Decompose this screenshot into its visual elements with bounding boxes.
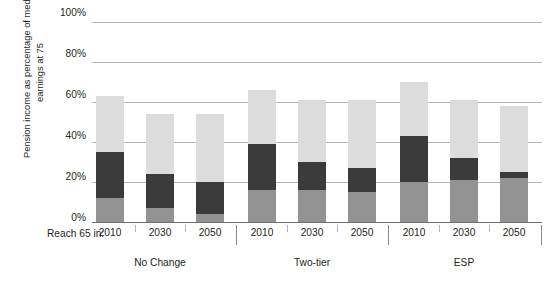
x-tick-label-3: 2050 [187,227,233,238]
bar-segment-top [400,82,428,136]
x-axis-tick-2 [185,225,186,232]
x-tick-label-2: 2030 [137,227,183,238]
bar-6[interactable] [348,100,376,222]
bar-8[interactable] [450,100,478,222]
group-label-2: Two-tier [242,257,382,268]
bar-segment-bottom [400,182,428,222]
bar-segment-middle [146,174,174,208]
bar-segment-top [298,100,326,162]
bar-segment-middle [96,152,124,198]
gridline-100 [92,22,542,23]
x-tick-label-5: 2030 [289,227,335,238]
gridline-80 [92,62,542,63]
bar-segment-bottom [146,208,174,222]
bar-7[interactable] [400,82,428,222]
group-separator-2 [388,225,389,245]
chart-root: Pension income as percentage of median e… [0,0,551,287]
bar-segment-top [450,100,478,158]
x-axis-tick-4 [337,225,338,232]
y-axis-tick-labels: 100% 80% 60% 40% 20% 0% [40,14,86,222]
group-separator-1 [236,225,237,245]
y-tick-label-40: 40% [40,130,86,141]
x-tick-label-6: 2050 [339,227,385,238]
bar-segment-top [96,96,124,152]
x-tick-label-1: 2010 [87,227,133,238]
bar-segment-bottom [348,192,376,222]
y-tick-label-0: 0% [40,212,86,223]
bar-segment-bottom [298,190,326,222]
x-axis-labels: Reach 65 in: 201020302050201020302050201… [0,225,551,287]
bar-5[interactable] [298,100,326,222]
bar-segment-bottom [196,214,224,222]
bar-1[interactable] [96,96,124,222]
bar-segment-bottom [96,198,124,222]
x-tick-label-9: 2050 [491,227,537,238]
y-tick-label-20: 20% [40,171,86,182]
bar-segment-middle [450,158,478,180]
bar-segment-top [348,100,376,168]
bar-segment-top [196,114,224,182]
x-axis-tick-6 [489,225,490,232]
bar-segment-bottom [500,178,528,222]
x-axis-tick-5 [439,225,440,232]
x-axis-tick-3 [287,225,288,232]
x-tick-label-4: 2010 [239,227,285,238]
x-axis-tick-1 [135,225,136,232]
bar-segment-middle [400,136,428,182]
bar-segment-top [146,114,174,174]
bar-segment-top [500,106,528,172]
bar-segment-top [248,90,276,144]
bar-segment-bottom [248,190,276,222]
bar-segment-middle [298,162,326,190]
group-label-1: No Change [90,257,230,268]
x-axis-line [92,222,542,223]
y-tick-label-80: 80% [40,48,86,59]
x-tick-label-7: 2010 [391,227,437,238]
bar-segment-middle [348,168,376,192]
bar-4[interactable] [248,90,276,222]
bar-segment-bottom [450,180,478,222]
bar-segment-middle [248,144,276,190]
bar-segment-middle [196,182,224,214]
group-label-3: ESP [394,257,534,268]
bar-3[interactable] [196,114,224,222]
x-tick-label-8: 2030 [441,227,487,238]
y-tick-label-100: 100% [40,7,86,18]
bar-2[interactable] [146,114,174,222]
bar-9[interactable] [500,106,528,222]
y-tick-label-60: 60% [40,89,86,100]
group-separator-end [541,225,542,245]
plot-area [92,14,542,222]
